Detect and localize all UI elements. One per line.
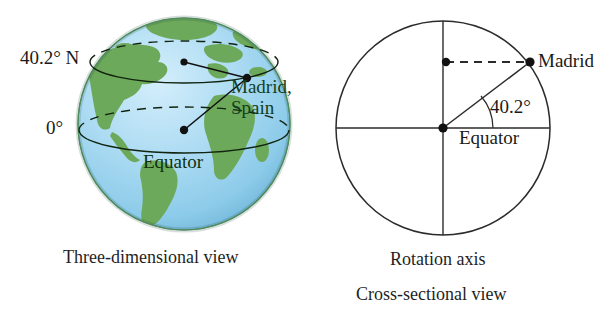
madrid-label-cross-section: Madrid [538,51,594,70]
radius-to-madrid-line [443,62,530,128]
angle-40-label: 40.2° [490,97,531,116]
axis-point-latitude-dot [180,58,187,65]
globe-svg [0,0,607,316]
globe-center-dot [180,126,188,134]
equator-label-cross-section: Equator [459,128,519,147]
madrid-country-label-line2: Spain [231,98,274,117]
three-dimensional-view-caption: Three-dimensional view [63,248,238,266]
latitude-0-label: 0° [46,118,63,137]
equator-label-3d: Equator [143,152,203,171]
globe-sphere [78,15,290,230]
latitude-diagram-figure: 40.2° N 0° Madrid, Spain Equator Three-d… [0,0,607,316]
madrid-point-dot-cs [525,57,534,66]
axis-point-latitude-dot-cs [442,58,450,66]
latitude-40-label: 40.2° N [20,48,79,67]
cross-sectional-view-caption: Cross-sectional view [356,285,506,303]
circle-center-dot [438,123,447,132]
madrid-city-label-line1: Madrid, [231,77,292,96]
rotation-axis-caption: Rotation axis [390,250,486,268]
